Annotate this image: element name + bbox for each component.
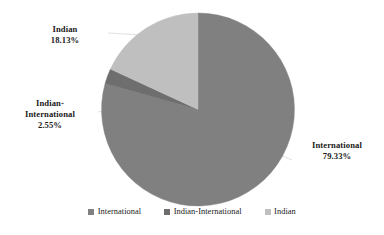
legend-item-indian[interactable]: Indian: [265, 207, 296, 216]
legend-swatch-indian: [265, 209, 271, 215]
legend-swatch-international: [88, 209, 94, 215]
slice-callout-international-value: 79.33%: [292, 151, 382, 162]
chart-legend: InternationalIndian-InternationalIndian: [0, 207, 384, 216]
slice-callout-indian-international: Indian- International 2.55%: [2, 98, 98, 131]
slice-callout-indian-international-label-line2: International: [2, 109, 98, 120]
pie-chart-figure: Indian 18.13% Indian- International 2.55…: [0, 0, 384, 235]
legend-label-indian-international: Indian-International: [174, 207, 242, 216]
legend-swatch-indian-international: [164, 209, 170, 215]
legend-item-international[interactable]: International: [88, 207, 141, 216]
slice-callout-international: International 79.33%: [292, 140, 382, 162]
slice-callout-indian-value: 18.13%: [22, 35, 108, 46]
legend-label-international: International: [98, 207, 141, 216]
legend-item-indian-international[interactable]: Indian-International: [164, 207, 241, 216]
slice-callout-indian: Indian 18.13%: [22, 24, 108, 46]
slice-callout-international-label: International: [292, 140, 382, 151]
legend-label-indian: Indian: [274, 207, 296, 216]
slice-callout-indian-label: Indian: [22, 24, 108, 35]
slice-callout-indian-international-value: 2.55%: [2, 120, 98, 131]
slice-callout-indian-international-label-line1: Indian-: [2, 98, 98, 109]
pie-slices-group: [102, 13, 295, 206]
